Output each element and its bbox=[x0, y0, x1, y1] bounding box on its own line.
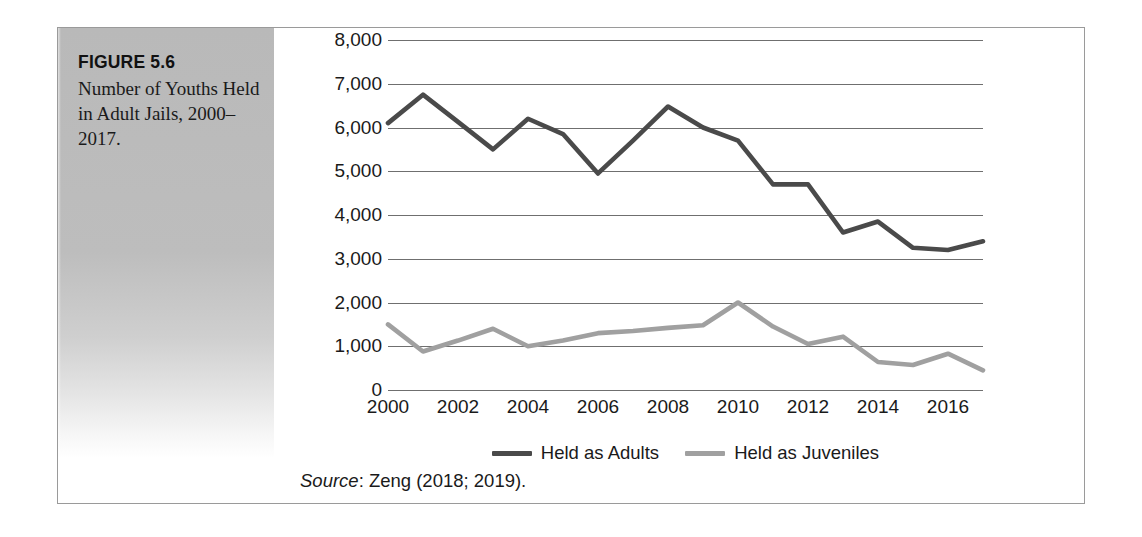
y-tick-label: 2,000 bbox=[300, 292, 382, 314]
legend-line-icon bbox=[492, 451, 532, 456]
figure-caption: FIGURE 5.6 Number of Youths Held in Adul… bbox=[78, 52, 268, 151]
source-word: Source bbox=[300, 470, 359, 491]
chart-legend: Held as AdultsHeld as Juveniles bbox=[388, 442, 983, 464]
x-tick-label: 2000 bbox=[367, 396, 409, 418]
series-line-adults bbox=[388, 95, 983, 250]
x-tick-label: 2004 bbox=[507, 396, 549, 418]
figure-label: FIGURE 5.6 bbox=[78, 52, 268, 73]
x-tick-label: 2014 bbox=[857, 396, 899, 418]
y-tick-label: 5,000 bbox=[300, 160, 382, 182]
y-tick-label: 4,000 bbox=[300, 204, 382, 226]
series-line-juveniles bbox=[388, 303, 983, 371]
x-tick-label: 2010 bbox=[717, 396, 759, 418]
x-tick-label: 2016 bbox=[927, 396, 969, 418]
gridline bbox=[388, 390, 983, 391]
source-note: Source: Zeng (2018; 2019). bbox=[300, 470, 526, 492]
figure-caption-text: Number of Youths Held in Adult Jails, 20… bbox=[78, 76, 268, 151]
x-tick-label: 2008 bbox=[647, 396, 689, 418]
x-tick-label: 2002 bbox=[437, 396, 479, 418]
y-tick-label: 6,000 bbox=[300, 117, 382, 139]
y-tick-label: 7,000 bbox=[300, 73, 382, 95]
y-tick-label: 3,000 bbox=[300, 248, 382, 270]
legend-label: Held as Adults bbox=[541, 442, 659, 464]
x-tick-label: 2012 bbox=[787, 396, 829, 418]
y-axis: 8,0007,0006,0005,0004,0003,0002,0001,000… bbox=[300, 40, 382, 400]
y-tick-label: 8,000 bbox=[300, 29, 382, 51]
x-axis: 200020022004200620082010201220142016 bbox=[388, 396, 983, 426]
legend-item-juveniles[interactable]: Held as Juveniles bbox=[685, 442, 879, 464]
figure-container: FIGURE 5.6 Number of Youths Held in Adul… bbox=[0, 0, 1142, 537]
series-layer bbox=[388, 40, 983, 390]
x-tick-label: 2006 bbox=[577, 396, 619, 418]
source-citation: : Zeng (2018; 2019). bbox=[359, 470, 527, 491]
plot-area: 8,0007,0006,0005,0004,0003,0002,0001,000… bbox=[300, 40, 1080, 510]
legend-line-icon bbox=[685, 451, 725, 456]
legend-label: Held as Juveniles bbox=[734, 442, 879, 464]
legend-item-adults[interactable]: Held as Adults bbox=[492, 442, 659, 464]
y-tick-label: 1,000 bbox=[300, 335, 382, 357]
